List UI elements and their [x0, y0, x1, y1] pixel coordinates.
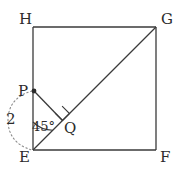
angle-label-45: 45° — [32, 120, 55, 133]
length-label-2: 2 — [6, 112, 16, 127]
vertex-label-F: F — [160, 150, 170, 165]
point-label-P: P — [18, 84, 28, 99]
vertex-label-H: H — [19, 12, 32, 27]
point-label-Q: Q — [64, 121, 76, 136]
geometry-figure: H G E F P Q 2 45° — [0, 0, 186, 176]
vertex-label-E: E — [19, 150, 30, 165]
point-P-marker — [32, 89, 37, 94]
vertex-label-G: G — [161, 12, 173, 27]
